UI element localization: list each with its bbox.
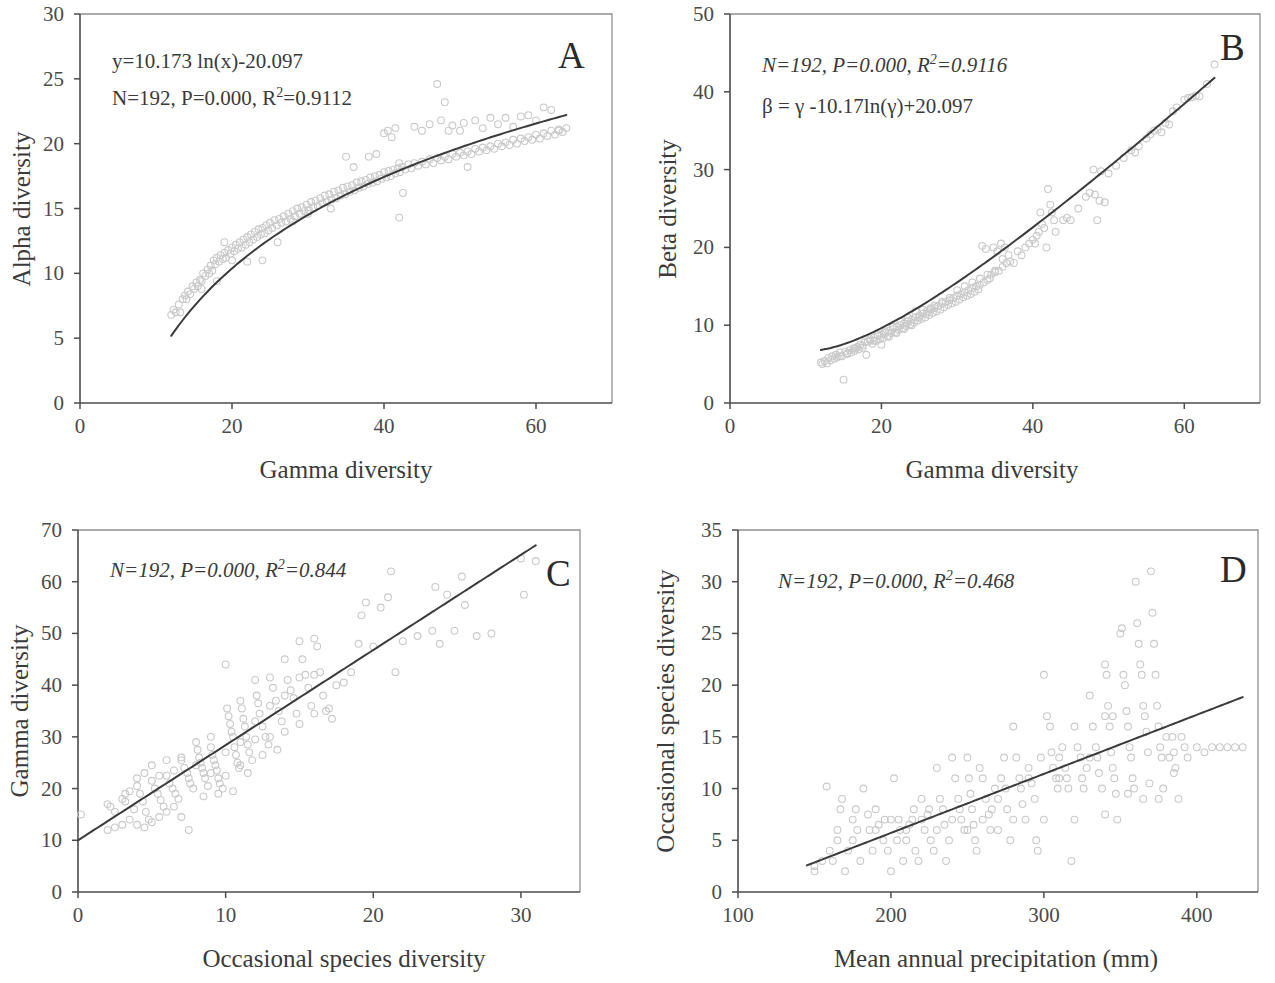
data-point: [457, 127, 464, 134]
data-point: [1108, 749, 1115, 756]
data-point: [1239, 744, 1246, 751]
data-point: [237, 697, 244, 704]
data-point: [163, 772, 170, 779]
panel-d-ylabel: Occasional species diversity: [652, 569, 679, 853]
data-point: [207, 733, 214, 740]
data-point: [311, 710, 318, 717]
data-point: [1129, 775, 1136, 782]
data-point: [429, 627, 436, 634]
data-point: [1065, 785, 1072, 792]
data-point: [840, 376, 847, 383]
axis-tick-label: 10: [41, 828, 62, 852]
data-point: [1134, 620, 1141, 627]
data-point: [863, 351, 870, 358]
data-point: [823, 783, 830, 790]
axis-tick-label: 30: [701, 570, 722, 594]
data-point: [414, 633, 421, 640]
data-point: [178, 814, 185, 821]
data-point: [269, 684, 276, 691]
data-point: [834, 837, 841, 844]
data-point: [1178, 733, 1185, 740]
axis-tick-label: 0: [52, 880, 63, 904]
data-point: [1031, 796, 1038, 803]
data-point: [296, 638, 303, 645]
panel-c-fit-line: [78, 545, 536, 840]
data-point: [1007, 837, 1014, 844]
data-point: [1013, 754, 1020, 761]
data-point: [1140, 702, 1147, 709]
data-point: [941, 821, 948, 828]
data-point: [432, 583, 439, 590]
data-point: [852, 806, 859, 813]
panel-a-xlabel: Gamma diversity: [260, 456, 433, 483]
data-point: [979, 775, 986, 782]
data-point: [1158, 754, 1165, 761]
data-point: [1074, 744, 1081, 751]
panel-d-fit-line: [807, 697, 1243, 865]
data-point: [1211, 61, 1218, 68]
data-point: [1149, 609, 1156, 616]
axis-tick-label: 50: [41, 621, 62, 645]
data-point: [1138, 671, 1145, 678]
data-point: [1001, 754, 1008, 761]
data-point: [104, 827, 111, 834]
data-point: [259, 752, 266, 759]
axis-tick-label: 0: [712, 880, 723, 904]
data-point: [910, 806, 917, 813]
data-point: [225, 713, 232, 720]
axis-tick-label: 70: [41, 518, 62, 542]
data-point: [141, 770, 148, 777]
data-point: [215, 790, 222, 797]
data-point: [1224, 744, 1231, 751]
data-point: [281, 728, 288, 735]
panel-c-stats: N=192, P=0.000, R2=0.844: [109, 557, 347, 582]
data-point: [943, 858, 950, 865]
data-point: [1059, 744, 1066, 751]
data-point: [255, 700, 262, 707]
panel-a-svg: 0204060051015202530 y=10.173 ln(x)-20.09…: [0, 0, 640, 500]
data-point: [207, 744, 214, 751]
panel-d-letter: D: [1220, 549, 1247, 590]
data-point: [1160, 785, 1167, 792]
data-point: [194, 746, 201, 753]
data-point: [548, 127, 555, 134]
data-point: [451, 627, 458, 634]
data-point: [969, 806, 976, 813]
axis-tick-label: 40: [41, 673, 62, 697]
data-point: [278, 718, 285, 725]
data-point: [1068, 858, 1075, 865]
data-point: [365, 153, 372, 160]
data-point: [958, 816, 965, 823]
data-point: [1170, 749, 1177, 756]
data-point: [156, 772, 163, 779]
data-point: [363, 599, 370, 606]
axis-tick-label: 0: [704, 391, 715, 415]
data-point: [134, 783, 141, 790]
data-point: [311, 671, 318, 678]
data-point: [329, 715, 336, 722]
data-point: [927, 837, 934, 844]
data-point: [274, 239, 281, 246]
panel-a-letter: A: [558, 35, 585, 76]
data-point: [207, 770, 214, 777]
data-point: [244, 770, 251, 777]
data-point: [826, 847, 833, 854]
data-point: [399, 638, 406, 645]
axis-tick-label: 0: [725, 414, 736, 438]
data-point: [1090, 166, 1097, 173]
data-point: [222, 749, 229, 756]
data-point: [1004, 806, 1011, 813]
panel-b-ylabel: Beta diversity: [654, 139, 681, 279]
data-point: [1146, 780, 1153, 787]
data-point: [348, 669, 355, 676]
panel-b-xlabel: Gamma diversity: [906, 456, 1079, 483]
data-point: [175, 796, 182, 803]
data-point: [392, 125, 399, 132]
data-point: [426, 121, 433, 128]
axis-tick-label: 20: [43, 132, 64, 156]
data-point: [373, 151, 380, 158]
data-point: [1033, 837, 1040, 844]
data-point: [193, 739, 200, 746]
data-point: [1047, 201, 1054, 208]
data-point: [222, 772, 229, 779]
